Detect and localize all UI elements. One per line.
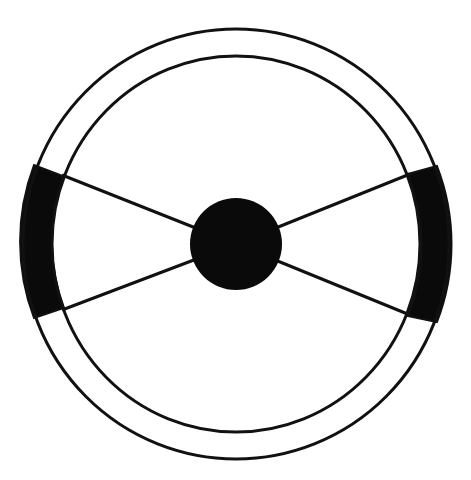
steering-wheel-diagram [0,0,471,480]
hub-circle [190,198,282,290]
right-grip [408,166,452,322]
